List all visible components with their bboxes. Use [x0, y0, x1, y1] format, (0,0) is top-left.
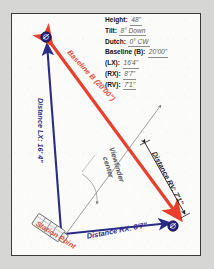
spec-key-rx: (RX):	[105, 70, 121, 78]
spec-key-baseline: Baseline (B):	[105, 48, 145, 56]
spec-value-dutch: 0° CW	[128, 38, 149, 48]
diagram-frame: Height: 48" Tilt: 8° Down Dutch: 0° CW B…	[11, 13, 201, 256]
diagram-page: Height: 48" Tilt: 8° Down Dutch: 0° CW B…	[0, 0, 214, 269]
spec-key-lx: (LX):	[105, 59, 120, 67]
spec-value-tilt: 8° Down	[119, 27, 146, 37]
spec-key-height: Height:	[105, 16, 128, 24]
spec-row-tilt: Tilt: 8° Down	[105, 27, 201, 37]
spec-row-dutch: Dutch: 0° CW	[105, 38, 201, 48]
spec-key-tilt: Tilt:	[105, 27, 117, 35]
spec-row-lx: (LX): 16'4"	[105, 59, 201, 69]
spec-list: Height: 48" Tilt: 8° Down Dutch: 0° CW B…	[105, 16, 201, 91]
spec-value-rv: 7'1"	[123, 81, 136, 91]
spec-row-rv: (RV): 7'1"	[105, 81, 201, 91]
spec-value-lx: 16'4"	[123, 59, 140, 69]
lx-distance-arrow	[47, 44, 61, 230]
spec-value-baseline: 20'00"	[148, 48, 168, 58]
spec-row-rx: (RX): 8'7"	[105, 70, 201, 80]
spec-value-height: 48"	[130, 16, 142, 26]
spec-key-dutch: Dutch:	[105, 38, 126, 46]
spec-row-baseline: Baseline (B): 20'00"	[105, 48, 201, 58]
lx-distance-label: Distance LX: 16' 4"	[36, 98, 45, 163]
left-node-marker	[41, 32, 51, 42]
spec-value-rx: 8'7"	[123, 70, 136, 80]
rotation-indicator	[82, 155, 97, 204]
spec-row-height: Height: 48"	[105, 16, 201, 26]
right-node-marker	[168, 221, 178, 231]
